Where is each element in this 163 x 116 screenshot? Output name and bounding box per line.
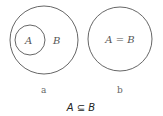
- equality-label: A = B: [104, 34, 134, 45]
- set-b-circle: [10, 6, 78, 74]
- venn-diagram: A B a A = B b A ⊆ B: [0, 0, 163, 116]
- caption-b: b: [117, 85, 123, 95]
- caption-a: a: [41, 85, 47, 95]
- panel-b: A = B b: [88, 7, 152, 95]
- set-b-label: B: [52, 35, 60, 46]
- set-a-label: A: [24, 35, 32, 46]
- subset-relation: A ⊆ B: [66, 102, 96, 113]
- panel-a: A B a: [10, 6, 78, 95]
